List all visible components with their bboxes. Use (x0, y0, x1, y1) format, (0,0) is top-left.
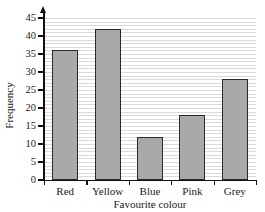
bar-yellow (95, 29, 121, 180)
bar-pink (179, 115, 205, 180)
x-axis-tick (214, 180, 215, 185)
y-axis-line (43, 12, 45, 180)
x-axis-tick (256, 180, 257, 185)
y-axis-tick (38, 53, 44, 54)
plot-area (44, 18, 256, 180)
category-label-yellow: Yellow (86, 186, 128, 197)
bar-grey (222, 79, 248, 180)
bar-blue (137, 137, 163, 180)
bar-chart-figure: ) Frequency 051015202530354045 RedYellow… (0, 0, 265, 212)
y-axis-tick-label: 25 (0, 85, 36, 96)
y-axis-tick-label: 5 (0, 157, 36, 168)
y-axis-tick-label: 0 (0, 175, 36, 186)
y-axis-tick (38, 107, 44, 108)
y-axis-tick-label: 10 (0, 139, 36, 150)
y-axis-tick-label: 40 (0, 31, 36, 42)
y-axis-tick (38, 125, 44, 126)
bar-red (52, 50, 78, 180)
y-axis-tick-label: 15 (0, 121, 36, 132)
y-axis-tick (38, 161, 44, 162)
x-axis-title: Favourite colour (44, 199, 256, 210)
y-axis-arrow-icon (40, 6, 46, 13)
y-axis-tick-label: 20 (0, 103, 36, 114)
y-axis-tick-label: 45 (0, 13, 36, 24)
y-axis-tick-label: 30 (0, 67, 36, 78)
x-axis-tick (86, 180, 87, 185)
category-label-blue: Blue (129, 186, 171, 197)
x-axis-tick (171, 180, 172, 185)
y-axis-tick (38, 71, 44, 72)
category-label-grey: Grey (214, 186, 256, 197)
y-axis-tick (38, 17, 44, 18)
y-axis-tick (38, 89, 44, 90)
x-axis-line (43, 180, 257, 182)
y-axis-tick (38, 35, 44, 36)
x-axis-tick (129, 180, 130, 185)
x-axis-tick (44, 180, 45, 185)
category-label-red: Red (44, 186, 86, 197)
category-label-pink: Pink (171, 186, 213, 197)
y-axis-tick-label: 35 (0, 49, 36, 60)
y-axis-tick (38, 143, 44, 144)
